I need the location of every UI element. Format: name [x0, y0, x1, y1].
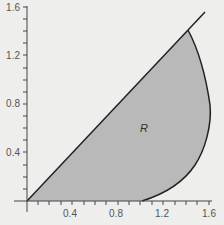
region-label: R [140, 122, 148, 134]
y-axis-ticks [23, 7, 27, 189]
y-tick-label: 0.4 [6, 147, 20, 158]
chart-plot: 0.4 0.8 1.2 1.6 0.4 0.8 1.2 1.6 R [0, 0, 224, 225]
x-tick-label: 1.2 [155, 208, 169, 219]
shaded-region-r [27, 30, 210, 201]
x-tick-label: 1.6 [202, 208, 216, 219]
y-tick-label: 1.6 [6, 2, 20, 13]
x-tick-label: 0.8 [109, 208, 123, 219]
y-tick-label: 1.2 [6, 50, 20, 61]
y-tick-label: 0.8 [6, 98, 20, 109]
x-tick-label: 0.4 [63, 208, 77, 219]
x-axis-ticks [38, 201, 209, 205]
